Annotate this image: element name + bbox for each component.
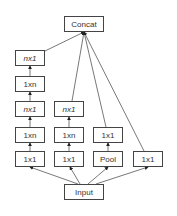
node-label: 1x1 [63,155,76,164]
node-label: 1x1 [102,131,115,140]
b2-1x1-node: 1x1 [54,151,84,167]
b1-1xn-a-node: 1xn [15,127,45,143]
concat-node: Concat [64,16,104,32]
inception-diagram: Concat nx1 1xn nx1 1xn 1x1 nx1 1xn 1x1 1… [0,0,177,216]
node-label: 1x1 [142,155,155,164]
node-label: nx1 [24,54,37,63]
node-label: Input [75,188,93,197]
node-label: Pool [100,155,116,164]
b1-nx1-a-node: nx1 [15,101,45,117]
node-label: Concat [71,20,96,29]
b1-1xn-b-node: 1xn [15,76,45,92]
b1-nx1-b-node: nx1 [15,50,45,66]
b1-1x1-node: 1x1 [15,151,45,167]
b3-1x1-node: 1x1 [93,127,123,143]
b2-nx1-node: nx1 [54,101,84,117]
node-label: 1xn [63,131,76,140]
node-label: nx1 [24,105,37,114]
node-label: 1xn [24,131,37,140]
node-label: nx1 [63,105,76,114]
b4-1x1-node: 1x1 [133,151,163,167]
node-label: 1xn [24,80,37,89]
input-node: Input [64,184,104,200]
node-label: 1x1 [24,155,37,164]
b2-1xn-node: 1xn [54,127,84,143]
b3-pool-node: Pool [93,151,123,167]
